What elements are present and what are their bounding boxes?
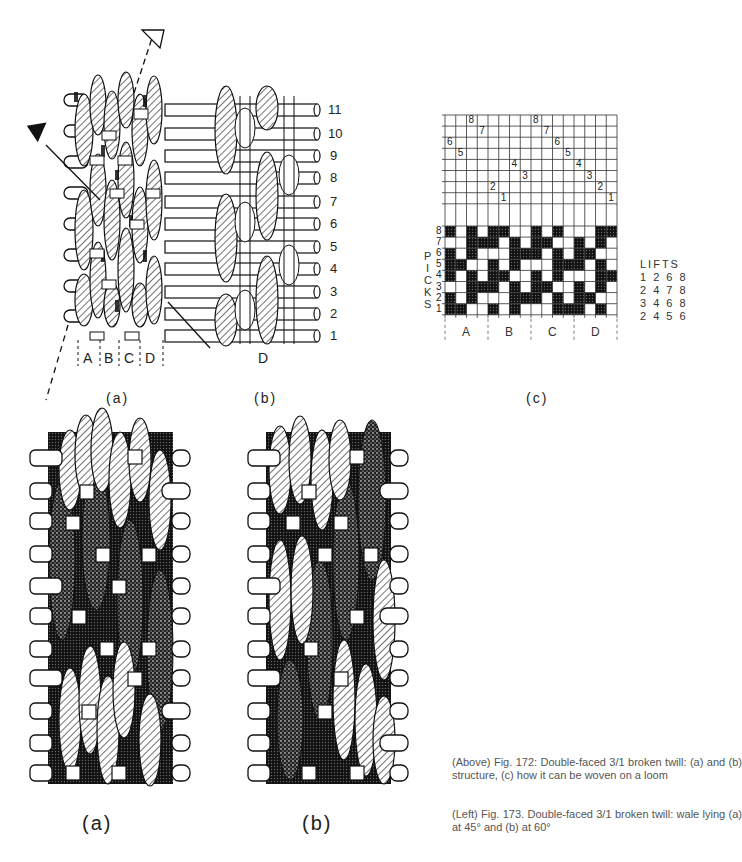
pick-row-number: 6 [436,247,442,258]
caption-fig172: (Above) Fig. 172: Double-faced 3/1 broke… [452,756,742,782]
fig172a-col-label-A: A [83,350,94,366]
threading-number: 8 [533,114,539,125]
fig172c-draft-grid [442,115,617,343]
picks-letter: K [424,286,431,298]
draft-cell-filled [563,259,574,270]
draft-cell-filled [585,293,596,304]
fig172a-caption-label: (a) [106,390,129,406]
draft-cell-filled [467,237,478,248]
draft-cell-filled [477,282,488,293]
fig172a-col-label-C: C [124,350,136,366]
threading-number: 5 [458,147,464,158]
threading-number: 4 [512,158,518,169]
draft-cell-filled [596,259,607,270]
fig173b-caption-label: (b) [302,812,332,835]
draft-cell-filled [553,226,564,237]
fig173b-weave [248,416,408,784]
fig172b-caption-label: (b) [254,390,277,406]
draft-cell-filled [596,226,607,237]
draft-cell-filled [596,304,607,315]
picks-letter: P [424,250,431,262]
threading-number: 5 [565,147,571,158]
draft-cell-filled [467,270,478,281]
draft-cell-filled [553,270,564,281]
draft-cell-filled [510,293,521,304]
draft-cell-filled [574,259,585,270]
draft-cell-filled [488,226,499,237]
fig172c-group-D: D [591,325,600,339]
pick-row-number: 8 [436,225,442,236]
draft-cell-filled [574,304,585,315]
pick-number: 7 [330,194,337,209]
pick-number: 2 [330,306,337,321]
fig172a-col-label-D: D [145,350,157,366]
draft-cell-filled [488,304,499,315]
draft-cell-filled [510,304,521,315]
threading-number: 2 [598,181,604,192]
fig172c-group-C: C [548,325,557,339]
lifts-table: LIFTS 1 2 6 8 2 4 7 8 3 4 6 8 2 4 5 6 [640,258,688,323]
threading-number: 1 [501,192,507,203]
threading-number: 8 [469,114,475,125]
threading-number: 3 [522,170,528,181]
draft-cell-filled [456,304,467,315]
draft-cell-filled [520,293,531,304]
draft-cell-filled [596,237,607,248]
caption-fig173: (Left) Fig. 173. Double-faced 3/1 broken… [452,808,742,834]
draft-cell-filled [510,282,521,293]
draft-cell-filled [510,248,521,259]
lifts-title: LIFTS [640,258,688,271]
fig172a-weave-block [64,72,162,340]
lifts-row: 3 4 6 8 [640,297,688,310]
pick-row-number: 1 [436,303,442,314]
pick-number: 10 [328,126,342,141]
threading-number: 6 [555,136,561,147]
pick-row-number: 2 [436,292,442,303]
draft-cell-filled [488,282,499,293]
draft-cell-filled [585,248,596,259]
pick-number: 3 [330,284,337,299]
draft-cell-filled [553,259,564,270]
threading-number: 1 [608,192,614,203]
pick-number: 11 [328,102,342,117]
threading-number: 7 [479,125,485,136]
draft-cell-filled [563,304,574,315]
draft-cell-filled [596,270,607,281]
draft-cell-filled [499,270,510,281]
draft-cell-filled [467,248,478,259]
pick-number: 9 [330,148,337,163]
draft-cell-filled [542,237,553,248]
draft-cell-filled [445,248,456,259]
pick-row-number: 3 [436,281,442,292]
draft-cell-filled [445,226,456,237]
threading-number: 6 [447,136,453,147]
draft-cell-filled [606,270,617,281]
threading-number: 3 [587,170,593,181]
draft-cell-filled [510,259,521,270]
draft-cell-filled [553,293,564,304]
draft-cell-filled [596,282,607,293]
picks-letter: C [424,274,432,286]
draft-cell-filled [574,293,585,304]
draft-cell-filled [531,293,542,304]
draft-cell-filled [553,248,564,259]
threading-number: 4 [576,158,582,169]
draft-cell-filled [531,270,542,281]
draft-cell-filled [574,248,585,259]
draft-cell-filled [499,226,510,237]
draft-cell-filled [531,248,542,259]
draft-cell-filled [553,304,564,315]
draft-cell-filled [510,237,521,248]
draft-cell-filled [531,282,542,293]
draft-cell-filled [574,282,585,293]
fig172b-weave-open [165,86,320,346]
draft-cell-filled [445,270,456,281]
draft-cell-filled [488,237,499,248]
lifts-row: 1 2 6 8 [640,271,688,284]
draft-cell-filled [445,304,456,315]
draft-cell-filled [445,259,456,270]
draft-cell-filled [574,237,585,248]
draft-cell-filled [488,270,499,281]
pick-row-number: 5 [436,258,442,269]
